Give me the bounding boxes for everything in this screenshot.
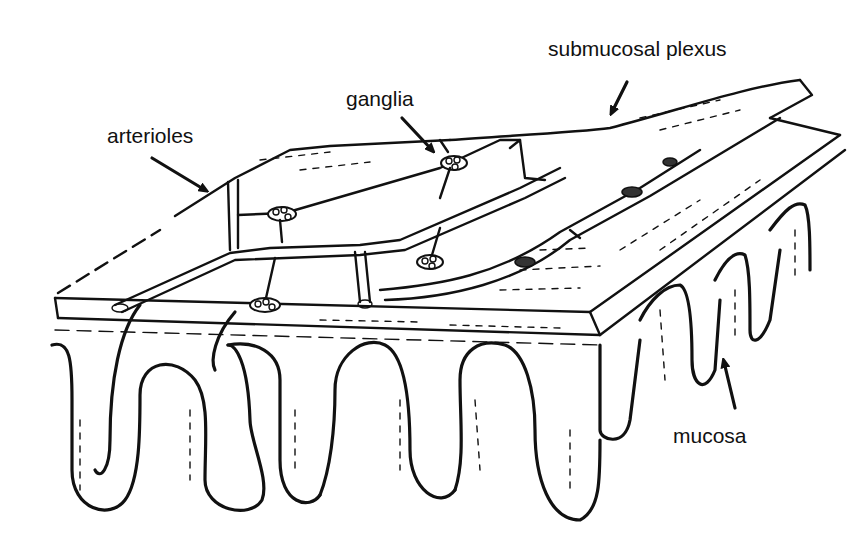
label-mucosa: mucosa [673, 425, 747, 446]
arrow-submucosal-plexus [612, 82, 627, 112]
ganglion-3 [417, 228, 443, 269]
submucosa-slab [55, 80, 845, 345]
ganglion-2 [440, 140, 467, 198]
intestinal-wall-drawing [0, 0, 854, 558]
label-submucosal-plexus: submucosal plexus [548, 38, 727, 59]
ganglion-1 [268, 207, 296, 242]
label-ganglia: ganglia [346, 88, 414, 109]
arrow-ganglia [402, 118, 432, 150]
ganglion-4 [250, 258, 280, 312]
mucosal-folds [52, 204, 810, 520]
diagram-figure: submucosal plexus ganglia arterioles muc… [0, 0, 854, 558]
arrow-mucosa [724, 362, 735, 408]
label-arterioles: arterioles [107, 125, 193, 146]
arrow-arterioles [152, 158, 205, 190]
ganglia-clusters [250, 140, 677, 312]
